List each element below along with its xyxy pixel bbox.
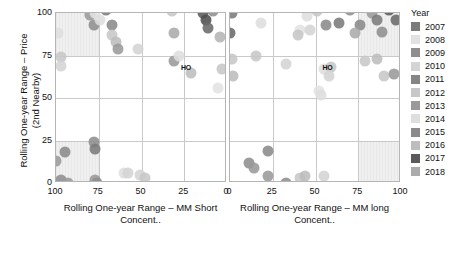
scatter-point: [319, 171, 330, 182]
scatter-point: [90, 144, 101, 155]
legend-item-label: 2016: [425, 140, 445, 150]
scatter-point: [360, 55, 371, 66]
x-tick-label: 50: [135, 186, 145, 196]
scatter-point: [56, 60, 67, 71]
scatter-point: [213, 82, 224, 93]
gridline-horizontal: [56, 98, 225, 99]
scatter-point: [262, 145, 273, 156]
legend-item-2017[interactable]: 2017: [409, 152, 467, 165]
legend-item-2011[interactable]: 2011: [409, 73, 467, 86]
legend-swatch: [411, 114, 420, 123]
legend-item-label: 2009: [425, 48, 445, 58]
legend-swatch: [411, 141, 420, 150]
scatter-point: [122, 167, 133, 178]
scatter-point: [324, 70, 335, 81]
scatter-point: [349, 28, 360, 39]
legend-swatch: [411, 35, 420, 44]
scatter-point: [372, 14, 383, 25]
x-tick-label: 75: [93, 186, 103, 196]
scatter-point: [372, 53, 383, 64]
x-tick-label: 0: [226, 186, 231, 196]
legend-item-2010[interactable]: 2010: [409, 60, 467, 73]
scatter-point: [301, 12, 312, 22]
legend-item-2012[interactable]: 2012: [409, 86, 467, 99]
legend-swatch: [411, 101, 420, 110]
legend-item-2014[interactable]: 2014: [409, 112, 467, 125]
scatter-point: [167, 12, 178, 17]
gridline-horizontal: [56, 56, 225, 57]
scatter-point: [255, 18, 266, 29]
y-axis-ticks: 0255075100: [18, 0, 52, 198]
legend-swatch: [411, 75, 420, 84]
scatter-point: [215, 31, 226, 42]
scatter-point: [312, 12, 323, 17]
scatter-point: [216, 64, 226, 75]
scatter-point: [62, 178, 73, 183]
legend-item-label: 2017: [425, 153, 445, 163]
x-axis-title-right: Rolling One-year Range – MM long Concent…: [229, 202, 400, 225]
legend-swatch: [411, 154, 420, 163]
legend-item-label: 2010: [425, 61, 445, 71]
gridline-vertical: [184, 13, 185, 181]
y-tick-label: 100: [22, 7, 52, 17]
scatter-point: [248, 162, 259, 173]
legend-entries: 2007200820092010201120122013201420152016…: [409, 20, 467, 178]
scatter-point: [334, 18, 345, 29]
scatter-point: [293, 30, 304, 41]
panel-mm-short: HO: [55, 12, 226, 182]
gridline-horizontal: [230, 98, 399, 99]
scatter-point: [139, 172, 150, 182]
scatter-point: [305, 25, 316, 36]
x-tick-label: 25: [178, 186, 188, 196]
scatter-point: [133, 43, 144, 54]
scatter-point: [229, 28, 236, 39]
y-tick-label: 25: [22, 135, 52, 145]
scatter-point: [250, 50, 261, 61]
scatter-point: [112, 43, 123, 54]
legend-item-label: 2011: [425, 74, 444, 84]
legend-item-2008[interactable]: 2008: [409, 33, 467, 46]
scatter-point: [315, 89, 326, 100]
x-tick-label: 100: [47, 186, 62, 196]
scatter-point: [262, 171, 273, 182]
scatter-point: [92, 178, 103, 183]
legend-item-2009[interactable]: 2009: [409, 46, 467, 59]
legend-swatch: [411, 62, 420, 71]
scatter-point: [229, 70, 239, 81]
scatter-point: [281, 178, 292, 183]
scatter-point: [59, 147, 70, 158]
legend-title: Year: [411, 8, 467, 18]
x-tick-label: 75: [352, 186, 362, 196]
legend-item-2016[interactable]: 2016: [409, 139, 467, 152]
legend-item-label: 2012: [425, 88, 445, 98]
legend-item-2007[interactable]: 2007: [409, 20, 467, 33]
point-annotation: HO: [181, 64, 191, 71]
legend-item-2013[interactable]: 2013: [409, 99, 467, 112]
gridline-vertical: [358, 13, 359, 181]
panel-mm-long: HO: [229, 12, 400, 182]
legend-item-label: 2018: [425, 167, 445, 177]
chart-root: Rolling One-year Range – Price (2nd Near…: [0, 0, 467, 254]
scatter-point: [281, 59, 292, 70]
legend-item-label: 2008: [425, 35, 445, 45]
legend-item-2018[interactable]: 2018: [409, 165, 467, 178]
scatter-point: [300, 171, 311, 182]
scatter-point: [390, 14, 400, 25]
x-tick-label: 100: [392, 186, 407, 196]
legend-item-label: 2007: [425, 22, 445, 32]
scatter-point: [174, 50, 185, 61]
gridline-horizontal: [230, 141, 399, 142]
shaded-quadrant: [358, 141, 400, 183]
legend-swatch: [411, 88, 420, 97]
gridline-vertical: [273, 13, 274, 181]
scatter-point: [344, 12, 355, 15]
scatter-point: [389, 69, 400, 80]
x-axis-title-left: Rolling One-year Range – MM Short Concen…: [55, 202, 226, 225]
legend-item-2015[interactable]: 2015: [409, 126, 467, 139]
scatter-point: [229, 12, 237, 19]
x-tick-label: 25: [267, 186, 277, 196]
gridline-horizontal: [56, 141, 225, 142]
legend-item-label: 2015: [425, 127, 445, 137]
y-tick-label: 75: [22, 50, 52, 60]
scatter-point: [320, 19, 331, 30]
